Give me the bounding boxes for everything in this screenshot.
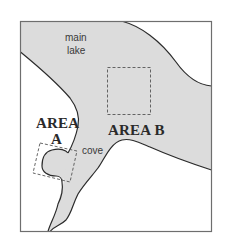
lake-map-diagram: main lake AREA A AREA B cove	[0, 0, 226, 247]
area-b-label: AREA B	[108, 122, 165, 138]
main-lake-label-line1: main	[65, 32, 87, 43]
area-a-label-line1: AREA	[36, 115, 79, 131]
main-lake-label-line2: lake	[67, 45, 86, 56]
area-a-label-line2: A	[51, 131, 62, 147]
cove-label: cove	[82, 145, 104, 156]
